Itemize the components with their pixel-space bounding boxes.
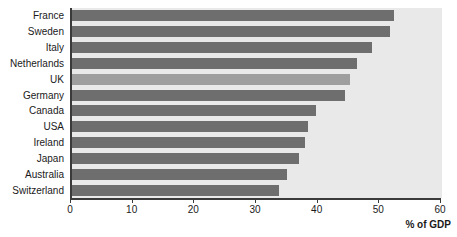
bar-row: [72, 58, 442, 69]
bar: [72, 90, 345, 101]
bar-row: [72, 42, 442, 53]
bar: [72, 153, 299, 164]
x-tick-label: 20: [188, 204, 199, 215]
x-axis-tick-labels: 0102030405060: [70, 204, 440, 218]
bar-row: [72, 137, 442, 148]
category-label: Sweden: [0, 26, 68, 37]
plot-area: [70, 8, 442, 198]
bar: [72, 105, 316, 116]
category-label: Canada: [0, 105, 68, 116]
category-label: Netherlands: [0, 58, 68, 69]
x-tick-label: 10: [126, 204, 137, 215]
bar-row: [72, 153, 442, 164]
bar: [72, 58, 357, 69]
x-axis-title: % of GDP: [405, 219, 451, 230]
bar-row: [72, 26, 442, 37]
bar-row: [72, 10, 442, 21]
category-label: Australia: [0, 169, 68, 180]
x-tick-label: 60: [434, 204, 445, 215]
category-axis-labels: FranceSwedenItalyNetherlandsUKGermanyCan…: [0, 8, 68, 198]
bar-chart: FranceSwedenItalyNetherlandsUKGermanyCan…: [0, 0, 457, 237]
bar-row: [72, 121, 442, 132]
bar-row: [72, 105, 442, 116]
x-tick: [193, 198, 194, 203]
bar: [72, 74, 350, 85]
category-label: Japan: [0, 153, 68, 164]
x-tick-label: 30: [249, 204, 260, 215]
category-label: USA: [0, 121, 68, 132]
bar: [72, 26, 390, 37]
bar-row: [72, 185, 442, 196]
bar-row: [72, 169, 442, 180]
x-tick-label: 50: [373, 204, 384, 215]
x-tick-label: 0: [67, 204, 73, 215]
x-tick: [317, 198, 318, 203]
category-label: Ireland: [0, 137, 68, 148]
category-label: Italy: [0, 42, 68, 53]
x-tick: [255, 198, 256, 203]
x-tick: [440, 198, 441, 203]
category-label: UK: [0, 74, 68, 85]
category-label: France: [0, 10, 68, 21]
category-label: Germany: [0, 90, 68, 101]
x-tick: [132, 198, 133, 203]
bar-rows: [72, 8, 442, 198]
x-tick: [378, 198, 379, 203]
bar: [72, 42, 372, 53]
bar: [72, 137, 305, 148]
bar-row: [72, 74, 442, 85]
bar: [72, 185, 279, 196]
bar-row: [72, 90, 442, 101]
category-label: Switzerland: [0, 185, 68, 196]
bar: [72, 10, 394, 21]
bar: [72, 121, 308, 132]
x-tick: [70, 198, 71, 203]
x-tick-label: 40: [311, 204, 322, 215]
bar: [72, 169, 287, 180]
